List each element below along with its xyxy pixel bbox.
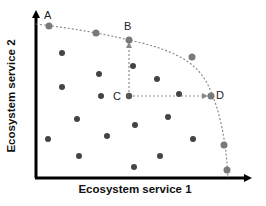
frontier-point bbox=[224, 167, 231, 174]
data-point bbox=[59, 50, 65, 56]
data-point bbox=[96, 71, 102, 77]
data-point bbox=[130, 63, 136, 69]
data-point bbox=[74, 116, 80, 122]
point-a bbox=[46, 23, 53, 30]
frontier-points bbox=[46, 23, 231, 174]
data-point bbox=[190, 136, 196, 142]
data-point bbox=[59, 84, 65, 90]
data-point bbox=[165, 114, 171, 120]
interior-points bbox=[45, 50, 196, 170]
point-c bbox=[126, 93, 132, 99]
data-point bbox=[176, 91, 182, 97]
data-point bbox=[157, 153, 163, 159]
label-d: D bbox=[216, 90, 224, 101]
frontier-point bbox=[221, 142, 228, 149]
diagram-canvas bbox=[0, 0, 266, 206]
x-axis-label: Ecosystem service 1 bbox=[60, 183, 210, 195]
point-b bbox=[126, 37, 133, 44]
y-axis-label: Ecosystem service 2 bbox=[5, 21, 21, 171]
data-point bbox=[132, 122, 138, 128]
production-possibility-frontier-diagram: A B C D Ecosystem service 2 Ecosystem se… bbox=[0, 0, 266, 206]
data-point bbox=[45, 136, 51, 142]
data-point bbox=[76, 153, 82, 159]
data-point bbox=[154, 76, 160, 82]
label-b: B bbox=[124, 21, 131, 32]
label-a: A bbox=[44, 10, 51, 21]
data-point bbox=[104, 133, 110, 139]
frontier-curve bbox=[36, 24, 228, 178]
data-point bbox=[131, 164, 137, 170]
data-point bbox=[98, 93, 104, 99]
frontier-point bbox=[189, 54, 196, 61]
frontier-point bbox=[93, 30, 100, 37]
point-d bbox=[208, 93, 215, 100]
label-c: C bbox=[113, 91, 121, 102]
